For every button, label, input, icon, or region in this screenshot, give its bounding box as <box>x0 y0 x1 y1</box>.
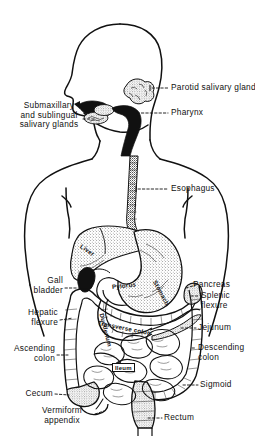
small-intestine-coil-6 <box>84 366 114 389</box>
neck-right-path <box>150 140 160 159</box>
ascending-colon-path <box>64 300 70 390</box>
label-submaxillary-sublingual-glands: Submaxillary and sublingual salivary gla… <box>10 101 88 130</box>
label-ascending-colon: Ascending colon <box>0 344 55 363</box>
label-pancreas: Pancreas <box>193 280 230 290</box>
label-gall-bladder: Gall bladder <box>4 276 63 295</box>
label-hepatic-flexure: Hepatic flexure <box>2 308 58 327</box>
label-esophagus: Esophagus <box>171 184 215 194</box>
submaxillary-gland-shape <box>94 105 114 116</box>
anal-canal-path <box>138 428 152 436</box>
label-sigmoid: Sigmoid <box>200 380 232 390</box>
neck-left-path <box>92 141 100 159</box>
small-intestine-coil-4 <box>150 356 182 379</box>
label-pharynx: Pharynx <box>171 108 203 118</box>
cystic-duct-path <box>93 269 110 273</box>
label-vermiform-appendix: Vermiform appendix <box>28 406 96 425</box>
label-parotid-salivary-gland: Parotid salivary gland <box>171 83 255 93</box>
label-descending-colon: Descending colon <box>198 343 244 362</box>
digestive-system-figure: Parotid salivary gland Submaxillary and … <box>0 0 255 448</box>
label-cecum: Cecum <box>6 389 53 399</box>
jejunum-coil-2 <box>121 335 152 358</box>
label-rectum: Rectum <box>164 413 194 423</box>
cecum-path <box>67 382 99 407</box>
ascending-colon-inner-path <box>76 302 82 387</box>
arm-crease-right-path <box>184 188 188 238</box>
label-splenic-flexure: Splenic flexure <box>201 291 230 310</box>
label-jejunum: Jejunum <box>198 323 231 333</box>
esophagus-path <box>127 156 138 234</box>
parotid-gland-shape <box>124 79 154 104</box>
label-ileum: Ileum <box>112 363 135 372</box>
hepatic-flexure-inner-path <box>82 298 95 304</box>
arm-crease-left-path <box>66 188 70 238</box>
